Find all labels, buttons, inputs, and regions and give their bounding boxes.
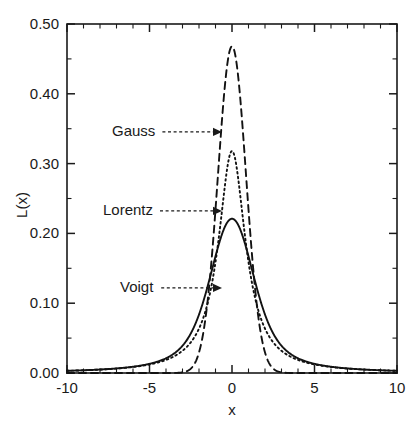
chart-background [0, 0, 418, 431]
annotation-label-gauss: Gauss [112, 122, 155, 139]
y-tick-label: 0.10 [30, 294, 59, 311]
annotation-label-voigt: Voigt [120, 278, 154, 295]
x-tick-label: -10 [56, 379, 78, 396]
voigt-profile-chart: -10-50510 0.000.100.200.300.400.50 Gauss… [0, 0, 418, 431]
x-tick-label: -5 [143, 379, 156, 396]
y-axis-title: L(x) [13, 192, 30, 218]
x-tick-label: 10 [389, 379, 406, 396]
x-tick-label: 5 [310, 379, 318, 396]
y-tick-label: 0.20 [30, 224, 59, 241]
chart-canvas: -10-50510 0.000.100.200.300.400.50 Gauss… [0, 0, 418, 431]
x-axis-title: x [228, 401, 236, 418]
y-tick-label: 0.50 [30, 15, 59, 32]
annotation-label-lorentz: Lorentz [103, 201, 153, 218]
x-tick-label: 0 [228, 379, 236, 396]
y-tick-label: 0.40 [30, 85, 59, 102]
y-tick-label: 0.30 [30, 155, 59, 172]
y-tick-label: 0.00 [30, 364, 59, 381]
